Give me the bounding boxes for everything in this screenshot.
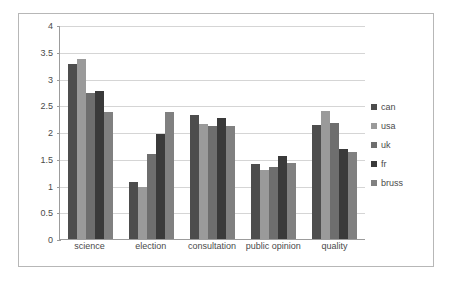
bar-bruss-science[interactable] xyxy=(104,112,113,239)
bar-uk-consultation[interactable] xyxy=(208,126,217,239)
bar-groups xyxy=(60,26,365,239)
legend-item-can[interactable]: can xyxy=(371,102,431,112)
bar-usa-science[interactable] xyxy=(77,59,86,239)
x-axis-label: consultation xyxy=(181,242,242,252)
bar-usa-quality[interactable] xyxy=(321,111,330,239)
legend-item-uk[interactable]: uk xyxy=(371,140,431,150)
bar-bruss-quality[interactable] xyxy=(348,152,357,239)
y-axis-tick-label: 0.5 xyxy=(40,209,53,218)
bar-fr-election[interactable] xyxy=(156,134,165,239)
legend-item-bruss[interactable]: bruss xyxy=(371,178,431,188)
bar-uk-election[interactable] xyxy=(147,154,156,239)
bar-group xyxy=(121,26,182,239)
legend-label: fr xyxy=(381,160,387,169)
y-axis: 43.532.521.510.50 xyxy=(27,26,53,240)
y-axis-tick-label: 0 xyxy=(48,236,53,245)
bar-group xyxy=(182,26,243,239)
bar-can-consultation[interactable] xyxy=(190,115,199,239)
x-axis-label: science xyxy=(59,242,120,252)
bar-uk-public-opinion[interactable] xyxy=(269,167,278,239)
bar-can-quality[interactable] xyxy=(312,125,321,239)
bar-usa-election[interactable] xyxy=(138,187,147,239)
legend-label: uk xyxy=(381,141,391,150)
bar-fr-science[interactable] xyxy=(95,91,104,239)
y-axis-tick-label: 1 xyxy=(48,182,53,191)
bar-can-public-opinion[interactable] xyxy=(251,164,260,239)
bar-fr-quality[interactable] xyxy=(339,149,348,239)
plot-area xyxy=(59,26,365,240)
bar-bruss-public-opinion[interactable] xyxy=(287,163,296,239)
bar-uk-quality[interactable] xyxy=(330,123,339,239)
legend-swatch-icon xyxy=(371,180,377,186)
y-axis-tick-mark xyxy=(57,240,61,241)
plot-wrapper: 43.532.521.510.50 scienceelectionconsult… xyxy=(19,14,433,266)
legend-swatch-icon xyxy=(371,142,377,148)
x-axis: scienceelectionconsultationpublic opinio… xyxy=(59,242,365,252)
y-axis-tick-label: 1.5 xyxy=(40,155,53,164)
bar-can-science[interactable] xyxy=(68,64,77,239)
bar-group xyxy=(243,26,304,239)
x-axis-label: election xyxy=(120,242,181,252)
legend-item-usa[interactable]: usa xyxy=(371,121,431,131)
chart-container: 43.532.521.510.50 scienceelectionconsult… xyxy=(18,13,434,267)
bar-uk-science[interactable] xyxy=(86,93,95,239)
y-axis-tick-label: 2.5 xyxy=(40,102,53,111)
bar-usa-public-opinion[interactable] xyxy=(260,170,269,239)
chart-legend: canusaukfrbruss xyxy=(371,102,431,197)
bar-usa-consultation[interactable] xyxy=(199,124,208,239)
y-axis-tick-label: 4 xyxy=(48,22,53,31)
bar-fr-public-opinion[interactable] xyxy=(278,156,287,239)
y-axis-tick-label: 3 xyxy=(48,75,53,84)
bar-group xyxy=(60,26,121,239)
bar-fr-consultation[interactable] xyxy=(217,118,226,239)
y-axis-tick-label: 3.5 xyxy=(40,48,53,57)
x-axis-label: quality xyxy=(304,242,365,252)
legend-swatch-icon xyxy=(371,123,377,129)
legend-item-fr[interactable]: fr xyxy=(371,159,431,169)
legend-label: can xyxy=(381,103,396,112)
y-axis-tick-label: 2 xyxy=(48,129,53,138)
legend-label: usa xyxy=(381,122,396,131)
bar-bruss-election[interactable] xyxy=(165,112,174,239)
bar-can-election[interactable] xyxy=(129,182,138,239)
bar-group xyxy=(304,26,365,239)
x-axis-label: public opinion xyxy=(243,242,304,252)
legend-label: bruss xyxy=(381,179,403,188)
legend-swatch-icon xyxy=(371,104,377,110)
legend-swatch-icon xyxy=(371,161,377,167)
bar-bruss-consultation[interactable] xyxy=(226,126,235,239)
